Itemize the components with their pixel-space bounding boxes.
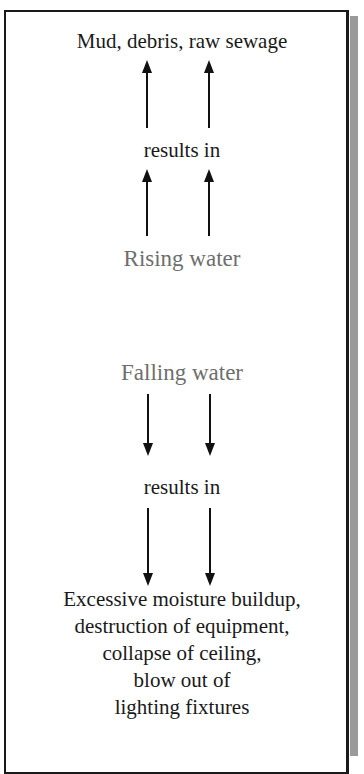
arrow-down-icon xyxy=(209,508,211,574)
effect-line: lighting fixtures xyxy=(0,694,364,721)
effect-line: collapse of ceiling, xyxy=(0,640,364,667)
arrow-down-icon xyxy=(147,394,149,444)
falling-water-label: Falling water xyxy=(0,360,364,386)
arrow-up-icon xyxy=(208,72,210,128)
arrow-up-icon xyxy=(146,181,148,236)
arrow-up-icon xyxy=(146,72,148,128)
connector-lower-label: results in xyxy=(0,474,364,500)
connector-upper-label: results in xyxy=(0,137,364,163)
arrow-down-icon xyxy=(147,508,149,574)
bottom-effects: Excessive moisture buildup, destruction … xyxy=(0,586,364,721)
rising-water-label: Rising water xyxy=(0,246,364,272)
arrow-down-icon xyxy=(209,394,211,444)
effect-line: destruction of equipment, xyxy=(0,613,364,640)
arrow-up-icon xyxy=(208,181,210,236)
top-effect-label: Mud, debris, raw sewage xyxy=(0,28,364,54)
effect-line: blow out of xyxy=(0,667,364,694)
effect-line: Excessive moisture buildup, xyxy=(0,586,364,613)
